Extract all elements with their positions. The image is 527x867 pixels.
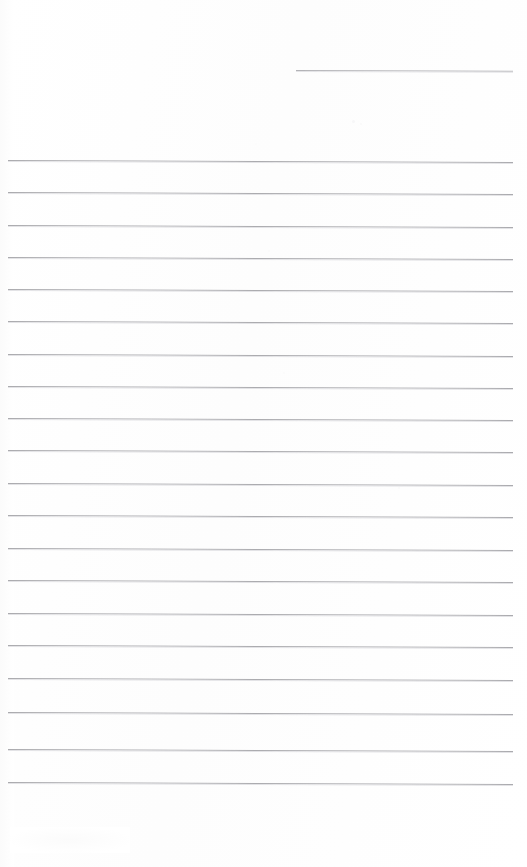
ruled-line	[8, 645, 513, 648]
scan-speck	[255, 143, 257, 145]
ruled-line	[8, 321, 513, 324]
scan-edge-shading-left	[0, 0, 14, 867]
scan-speck	[360, 123, 362, 125]
ruled-line	[8, 354, 513, 357]
scan-speck	[398, 487, 400, 489]
ruled-line	[8, 712, 513, 715]
ruled-line	[296, 70, 513, 72]
scan-speck	[352, 120, 355, 123]
ruled-line	[8, 418, 513, 421]
ruled-line	[8, 257, 513, 260]
ruled-line	[8, 580, 513, 583]
ruled-line	[8, 515, 513, 518]
scanned-page	[0, 0, 527, 867]
ruled-line	[8, 613, 513, 616]
ruled-line	[8, 678, 513, 681]
ruled-line	[8, 749, 513, 752]
ruled-line	[8, 386, 513, 389]
ruled-line	[8, 483, 513, 486]
ruled-line	[8, 782, 513, 785]
ruled-line	[8, 192, 513, 195]
paper-surface	[0, 0, 527, 867]
scan-speck	[268, 250, 270, 252]
scan-speck	[283, 372, 285, 374]
ruled-line	[8, 450, 513, 453]
ruled-line	[8, 160, 513, 163]
ruled-line	[8, 289, 513, 292]
ruled-line	[8, 548, 513, 551]
ruled-line	[8, 225, 513, 228]
scan-smudge-bottom-left	[10, 827, 130, 853]
